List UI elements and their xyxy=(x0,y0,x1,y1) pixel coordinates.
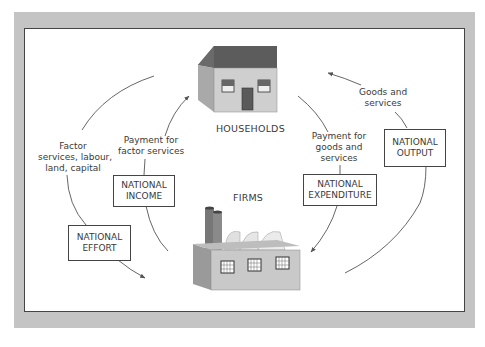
arc-income-line-top xyxy=(144,159,145,175)
box-line: EXPENDITURE xyxy=(308,190,371,201)
national-output-box: NATIONAL OUTPUT xyxy=(384,129,446,167)
arc-income-line-bottom xyxy=(146,206,168,251)
label-line: services, labour, xyxy=(38,152,108,163)
label-line: factor services xyxy=(118,146,184,157)
label-line: Goods and xyxy=(355,87,411,98)
national-effort-box: NATIONAL EFFORT xyxy=(68,225,131,261)
label-line: services xyxy=(309,153,369,164)
label-line: Payment for xyxy=(309,131,369,142)
payment-factor-label: Payment for factor services xyxy=(118,135,184,157)
box-line: NATIONAL xyxy=(317,179,362,190)
label-line: goods and xyxy=(309,142,369,153)
house-icon xyxy=(198,46,277,112)
national-expenditure-box: NATIONAL EXPENDITURE xyxy=(303,174,377,206)
national-income-box: NATIONAL INCOME xyxy=(113,175,175,207)
arc-factor-services-bottom xyxy=(67,175,86,225)
arc-output-top xyxy=(395,112,407,128)
box-line: NATIONAL xyxy=(392,137,437,148)
arrow-goods-to-households xyxy=(328,73,361,85)
box-line: OUTPUT xyxy=(397,148,434,159)
label-line: land, capital xyxy=(38,163,108,174)
factory-icon xyxy=(193,206,300,290)
box-line: EFFORT xyxy=(82,243,116,254)
label-line: Factor xyxy=(38,141,108,152)
box-line: NATIONAL xyxy=(77,232,122,243)
firms-label: FIRMS xyxy=(233,192,263,203)
arrow-expenditure-to-firms xyxy=(311,206,337,252)
factor-services-label: Factor services, labour, land, capital xyxy=(38,141,108,174)
households-label: HOUSEHOLDS xyxy=(216,123,285,134)
label-line: Payment for xyxy=(118,135,184,146)
arc-factor-services-top xyxy=(82,76,154,130)
box-line: NATIONAL xyxy=(121,180,166,191)
arrow-effort-to-firms xyxy=(118,260,145,278)
arc-expenditure-top xyxy=(298,96,328,132)
goods-services-label: Goods and services xyxy=(355,87,411,109)
label-line: services xyxy=(355,98,411,109)
arrow-income-to-households xyxy=(165,96,189,136)
box-line: INCOME xyxy=(126,191,162,202)
payment-goods-label: Payment for goods and services xyxy=(309,131,369,164)
